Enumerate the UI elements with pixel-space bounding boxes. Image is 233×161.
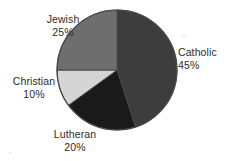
pie-label-catholic-value: 45% xyxy=(178,59,217,72)
pie-label-lutheran-name: Lutheran xyxy=(44,128,106,141)
pie-label-catholic: Catholic 45% xyxy=(178,46,217,71)
pie-label-jewish-name: Jewish xyxy=(36,13,90,26)
pie-label-lutheran-value: 20% xyxy=(44,141,106,154)
pie-label-jewish-value: 25% xyxy=(36,26,90,39)
pie-label-christian: Christian 10% xyxy=(3,75,65,100)
pie-label-catholic-name: Catholic xyxy=(178,46,217,59)
pie-label-lutheran: Lutheran 20% xyxy=(44,128,106,153)
pie-label-jewish: Jewish 25% xyxy=(36,13,90,38)
scan-artifact xyxy=(182,36,186,37)
pie-chart: Catholic 45% Lutheran 20% Christian 10% … xyxy=(0,0,233,161)
pie-chart-screenshot: Catholic 45% Lutheran 20% Christian 10% … xyxy=(0,0,233,161)
pie-label-christian-name: Christian xyxy=(3,75,65,88)
scan-artifact xyxy=(9,152,12,153)
pie-label-christian-value: 10% xyxy=(3,88,65,101)
